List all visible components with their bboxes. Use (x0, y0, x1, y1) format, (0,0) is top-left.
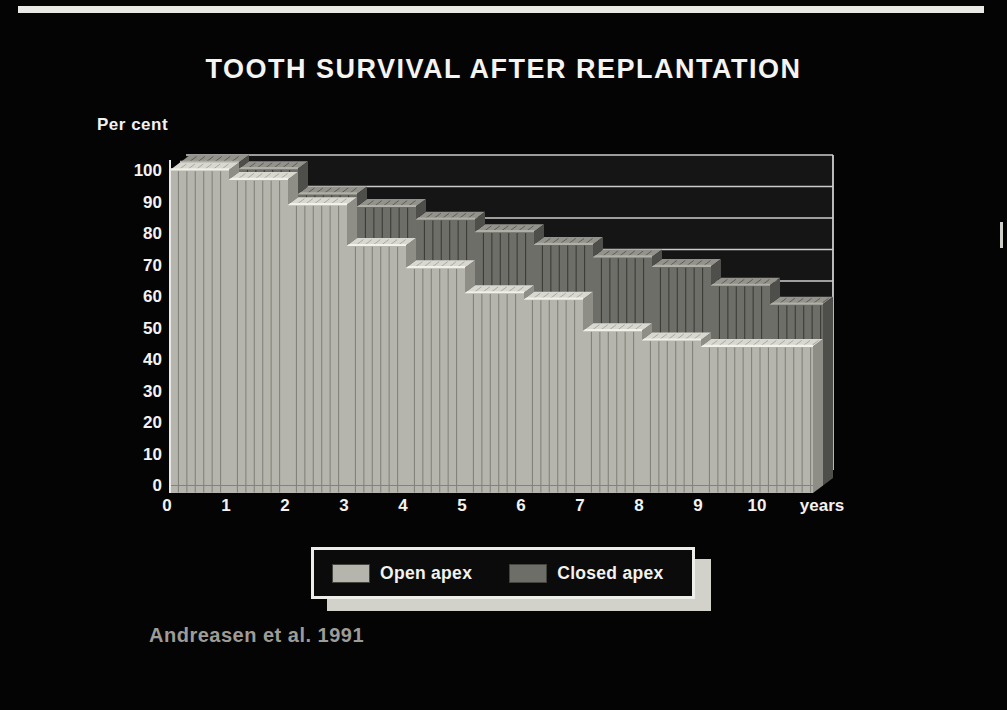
svg-text:10: 10 (748, 496, 767, 515)
svg-text:5: 5 (457, 496, 466, 515)
svg-text:0: 0 (162, 496, 171, 515)
svg-text:0: 0 (153, 476, 162, 495)
svg-text:100: 100 (134, 161, 162, 180)
svg-text:8: 8 (634, 496, 643, 515)
svg-text:80: 80 (143, 224, 162, 243)
svg-text:2: 2 (280, 496, 289, 515)
svg-text:20: 20 (143, 413, 162, 432)
svg-text:10: 10 (143, 445, 162, 464)
svg-text:60: 60 (143, 287, 162, 306)
svg-text:3: 3 (339, 496, 348, 515)
legend-label-open-apex: Open apex (380, 563, 472, 584)
svg-text:50: 50 (143, 319, 162, 338)
svg-text:70: 70 (143, 256, 162, 275)
legend: Open apex Closed apex (311, 547, 695, 599)
svg-text:40: 40 (143, 350, 162, 369)
svg-text:1: 1 (221, 496, 230, 515)
svg-text:years: years (800, 496, 844, 515)
svg-text:30: 30 (143, 382, 162, 401)
citation: Andreasen et al. 1991 (149, 624, 364, 647)
svg-text:90: 90 (143, 193, 162, 212)
svg-text:7: 7 (575, 496, 584, 515)
legend-label-closed-apex: Closed apex (557, 563, 663, 584)
slide: TOOTH SURVIVAL AFTER REPLANTATION Per ce… (0, 0, 1007, 710)
svg-text:9: 9 (693, 496, 702, 515)
legend-swatch-open-apex (332, 564, 370, 583)
legend-swatch-closed-apex (509, 564, 547, 583)
svg-text:4: 4 (398, 496, 408, 515)
svg-text:6: 6 (516, 496, 525, 515)
